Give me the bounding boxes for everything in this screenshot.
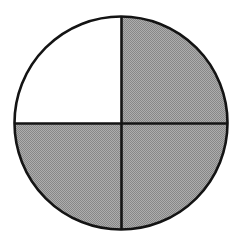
fraction-circle-figure: Shaded circle fraction diagram: [0, 0, 240, 245]
fraction-circle-svg: Shaded circle fraction diagram: [0, 0, 240, 245]
